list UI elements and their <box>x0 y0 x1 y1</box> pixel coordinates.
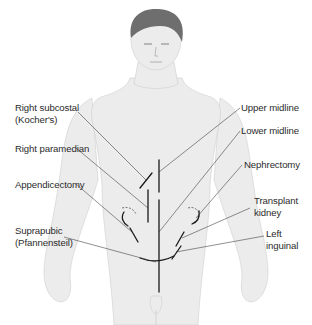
label-line: Suprapubic <box>15 225 73 237</box>
label-line: (Pfannensteil) <box>15 237 73 249</box>
label-right-subcostal: Right subcostal (Kocher's) <box>15 102 79 125</box>
label-line: Transplant <box>254 195 298 207</box>
body-silhouette <box>44 9 268 325</box>
label-line: Upper midline <box>241 102 299 114</box>
label-line: Appendicectomy <box>15 179 85 191</box>
label-right-paramedian: Right paramedian <box>15 143 89 155</box>
label-transplant-kidney: Transplant kidney <box>254 195 298 218</box>
label-line: inguinal <box>266 240 298 252</box>
label-line: (Kocher's) <box>15 114 79 126</box>
label-lower-midline: Lower midline <box>241 125 299 137</box>
label-line: Left <box>266 228 298 240</box>
label-line: Right subcostal <box>15 102 79 114</box>
label-left-inguinal: Left inguinal <box>266 228 298 251</box>
label-appendicectomy: Appendicectomy <box>15 179 85 191</box>
label-line: Nephrectomy <box>244 159 300 171</box>
label-nephrectomy: Nephrectomy <box>244 159 300 171</box>
label-line: Right paramedian <box>15 143 89 155</box>
incisions-diagram: Right subcostal (Kocher's) Right paramed… <box>0 0 312 325</box>
label-line: Lower midline <box>241 125 299 137</box>
label-upper-midline: Upper midline <box>241 102 299 114</box>
label-line: kidney <box>254 207 298 219</box>
label-suprapubic: Suprapubic (Pfannensteil) <box>15 225 73 248</box>
